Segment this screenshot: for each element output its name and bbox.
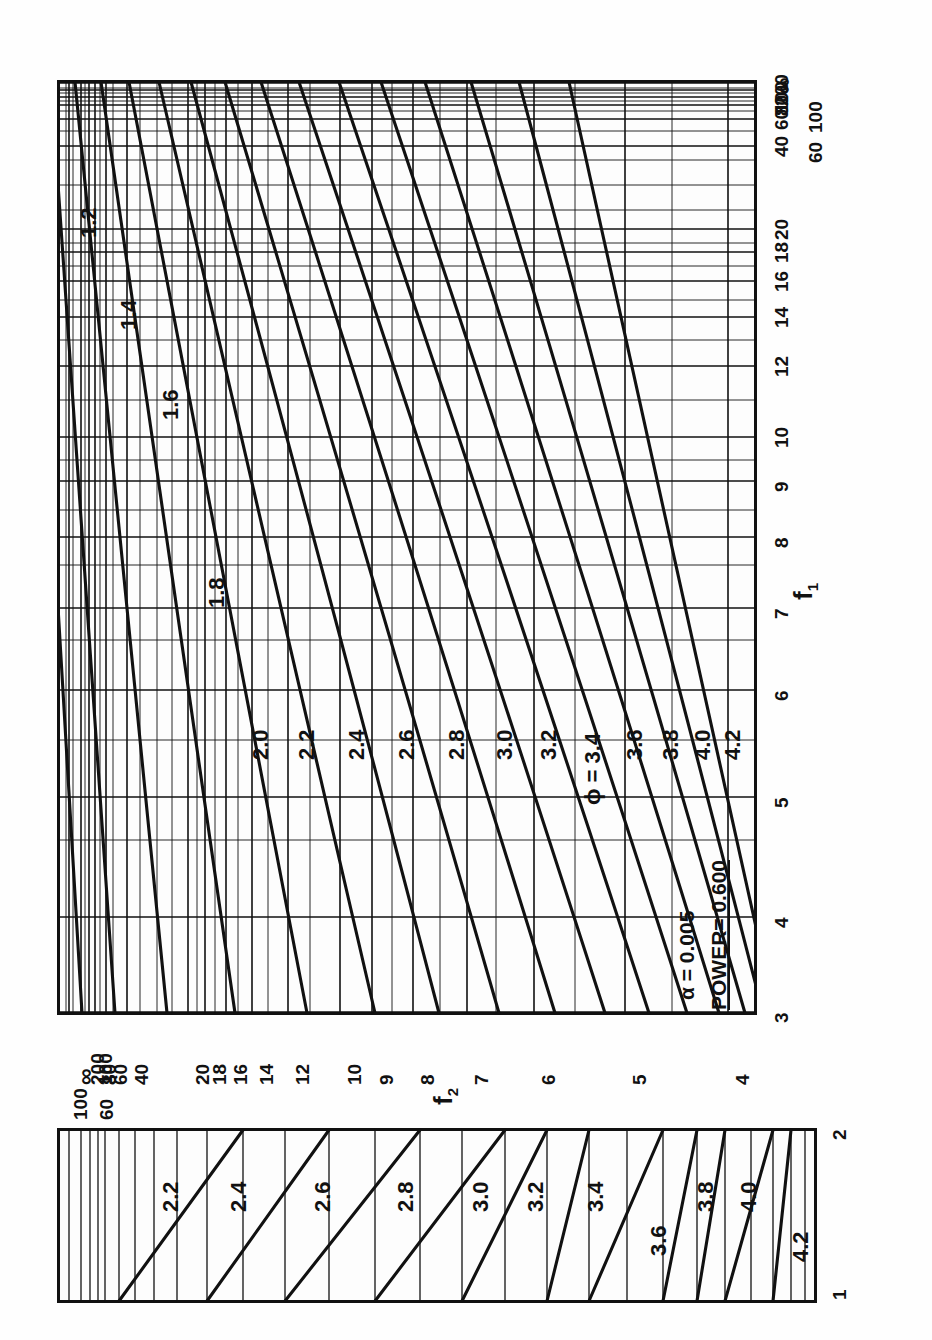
phi-curve-label-4.2: 4.2 [722, 729, 744, 760]
f1-tick-label-12: 12 [772, 356, 791, 377]
f2-tick-label-4: 4 [733, 1074, 752, 1085]
f1-tick-label-40: 40 [772, 136, 791, 157]
inset-tick-label-2: 2 [830, 1129, 849, 1140]
f1-tick-label-7: 7 [772, 608, 791, 619]
phi-curve-label-1.6: 1.6 [160, 389, 182, 420]
f2-tick-label-100-offset: 100 [71, 1088, 90, 1120]
f2-tick-label-6: 6 [539, 1074, 558, 1085]
f2-tick-label-16: 16 [231, 1064, 250, 1085]
f2-tick-label-8: 8 [418, 1074, 437, 1085]
main-power-chart-panel [57, 80, 757, 1015]
inset-tick-label-1: 1 [830, 1289, 849, 1300]
phi-curve-label-2.8: 2.8 [446, 729, 468, 760]
f1-tick-label-inf: ∞ [772, 78, 795, 94]
f1-tick-label-60-offset: 60 [806, 142, 825, 163]
inset-phi-curve-label-2.6: 2.6 [312, 1181, 334, 1212]
figure-root: 3456789101214161820406080100200∞10060456… [0, 0, 932, 1340]
axis-name-f2: f2 [430, 1088, 460, 1105]
f1-tick-label-14: 14 [772, 307, 791, 328]
f1-tick-label-9: 9 [772, 481, 791, 492]
phi-curve-label-2.2: 2.2 [296, 729, 318, 760]
f2-tick-label-10: 10 [345, 1064, 364, 1085]
f2-tick-label-20: 20 [193, 1064, 212, 1085]
f1-tick-label-16: 16 [772, 271, 791, 292]
f1-tick-label-3: 3 [772, 1012, 791, 1023]
inset-power-chart-panel [57, 1128, 817, 1303]
inset-phi-curve-label-3.4: 3.4 [585, 1181, 607, 1212]
phi-curve-label-1.4: 1.4 [118, 299, 140, 330]
phi-curve-label-2.0: 2.0 [250, 729, 272, 760]
inset-phi-curve-label-2.4: 2.4 [228, 1181, 250, 1212]
inset-phi-curve-label-2.8: 2.8 [395, 1181, 417, 1212]
phi-curve-label-3.4: ϕ = 3.4 [582, 733, 604, 805]
axis-name-f2-text: f [428, 1096, 458, 1105]
phi-curve-label-1.2: 1.2 [78, 207, 100, 238]
axis-name-f1: f1 [790, 583, 820, 600]
axis-name-f1-text: f [788, 591, 818, 600]
phi-curve-label-3.6: 3.6 [624, 729, 646, 760]
f2-tick-label-5: 5 [630, 1074, 649, 1085]
f2-tick-label-40: 40 [132, 1064, 151, 1085]
f2-tick-label-inf: ∞ [74, 1069, 97, 1085]
phi-curve-label-3.8: 3.8 [660, 729, 682, 760]
phi-curve-label-2.6: 2.6 [396, 729, 418, 760]
f2-tick-label-14: 14 [257, 1064, 276, 1085]
axis-name-f2-sub: 2 [444, 1088, 461, 1096]
f1-tick-label-5: 5 [772, 797, 791, 808]
phi-curve-label-1.8: 1.8 [206, 577, 228, 608]
f1-tick-label-20: 20 [772, 219, 791, 240]
inset-phi-curve-label-3.0: 3.0 [470, 1181, 492, 1212]
f1-tick-label-10: 10 [772, 427, 791, 448]
inset-phi-curve-label-3.2: 3.2 [525, 1181, 547, 1212]
main-chart-svg [57, 80, 757, 1015]
phi-curve-label-3.2: 3.2 [538, 729, 560, 760]
phi-curve-label-4.0: 4.0 [692, 729, 714, 760]
f2-tick-label-60-offset: 60 [97, 1099, 116, 1120]
inset-phi-curve-label-2.2: 2.2 [160, 1181, 182, 1212]
f2-tick-label-12: 12 [293, 1064, 312, 1085]
f1-tick-label-4: 4 [772, 917, 791, 928]
inset-chart-svg [57, 1128, 817, 1303]
f1-tick-label-8: 8 [772, 537, 791, 548]
f1-tick-label-18: 18 [772, 242, 791, 263]
axis-name-f1-sub: 1 [804, 583, 821, 591]
f2-tick-label-7: 7 [472, 1074, 491, 1085]
f1-tick-label-100-offset: 100 [806, 101, 825, 133]
alpha-annotation: α = 0.005 [676, 911, 697, 1000]
inset-phi-curve-label-3.8: 3.8 [695, 1181, 717, 1212]
phi-curve-label-2.4: 2.4 [346, 729, 368, 760]
f2-tick-label-9: 9 [377, 1074, 396, 1085]
phi-curve-label-3.0: 3.0 [494, 729, 516, 760]
inset-phi-curve-label-3.6: 3.6 [648, 1225, 670, 1256]
f1-tick-label-6: 6 [772, 690, 791, 701]
power-annotation-text: POWER= 0.600 [707, 860, 730, 1010]
power-annotation: POWER= 0.600 [708, 860, 729, 1010]
inset-phi-curve-label-4.0: 4.0 [738, 1181, 760, 1212]
inset-phi-curve-label-4.2: 4.2 [790, 1231, 812, 1262]
